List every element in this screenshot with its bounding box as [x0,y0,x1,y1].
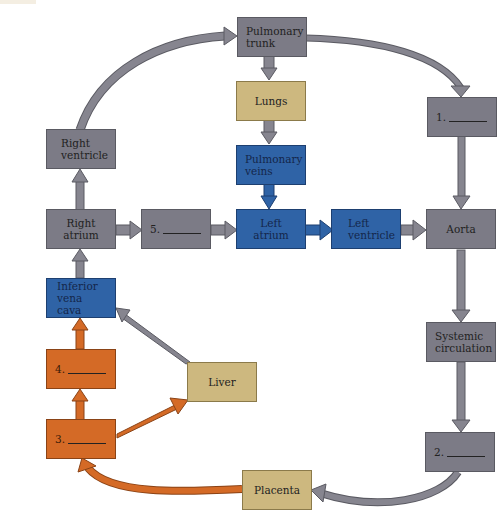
arrow-placenta-to-blank3 [78,458,242,491]
node-left-ventricle: Leftventricle [331,209,401,249]
node-blank-5: 5. [141,209,211,249]
node-placenta: Placenta [242,470,312,510]
node-pulmonary-trunk-line2: trunk [246,37,303,49]
node-right-ventricle-line1: Right [61,137,108,149]
node-placenta-label: Placenta [254,484,300,496]
node-pulmonary-trunk: Pulmonarytrunk [237,17,307,57]
node-right-atrium: Rightatrium [46,209,116,249]
arrow-blank5-to-left-atrium [211,221,237,239]
arrow-rv-to-pulmonary-trunk [80,27,237,130]
arrow-blank3-to-liver [117,398,188,438]
node-left-ventricle-line1: Left [348,217,395,229]
node-pulmonary-veins: Pulmonaryveins [236,145,306,185]
node-right-ventricle-line2: ventricle [61,149,108,161]
node-inferior-vena-cava: Inferiorvena cava [46,278,116,318]
node-liver-label: Liver [208,376,236,388]
node-pulmonary-veins-line1: Pulmonary [245,153,302,165]
arrow-ivc-to-right-atrium [72,249,88,278]
node-blank-3-answer-line[interactable] [68,435,106,444]
node-systemic-circulation-line2: circulation [435,342,492,354]
node-systemic-circulation: Systemiccirculation [426,322,496,362]
node-blank-1-answer-line[interactable] [449,113,487,122]
node-blank-2-answer-line[interactable] [447,448,485,457]
arrow-pulmonary-veins-to-left-atrium [261,184,277,209]
node-blank-4: 4. [46,349,116,389]
node-left-atrium: Leftatrium [236,209,306,249]
node-blank-2: 2. [425,432,495,472]
arrow-left-atrium-to-left-ventricle [304,220,333,240]
arrow-aorta-to-systemic-circulation [452,250,470,322]
node-aorta-label: Aorta [446,223,475,235]
node-lungs: Lungs [236,81,306,121]
arrow-lungs-to-pulmonary-veins [261,120,277,144]
node-blank-3-number: 3. [55,433,65,445]
node-systemic-circulation-line1: Systemic [435,330,492,342]
node-blank-4-answer-line[interactable] [68,365,106,374]
node-right-ventricle: Rightventricle [46,129,116,169]
arrow-blank2-to-placenta [311,472,458,502]
arrow-right-atrium-to-blank5 [116,221,142,239]
node-blank-5-answer-line[interactable] [163,225,201,234]
node-ivc-line1: Inferior [57,280,107,292]
arrow-blank3-to-blank4 [72,389,88,420]
node-left-atrium-line1: Left [253,217,289,229]
node-right-atrium-line2: atrium [63,229,99,241]
arrow-systemic-circulation-to-blank2 [452,362,470,432]
node-pulmonary-trunk-line1: Pulmonary [246,25,303,37]
arrow-liver-to-ivc [116,308,190,364]
node-blank-3: 3. [46,419,116,459]
arrow-right-atrium-to-right-ventricle [72,169,88,210]
node-lungs-label: Lungs [255,95,288,107]
arrow-blank1-to-aorta [453,136,470,209]
node-aorta: Aorta [426,209,496,249]
arrow-pulmonary-trunk-to-lungs [261,56,277,80]
arrow-pulmonary-trunk-to-blank1 [306,38,470,97]
node-blank-1-number: 1. [436,111,446,123]
arrow-left-ventricle-to-aorta [401,220,426,240]
node-blank-1: 1. [427,97,497,137]
node-liver: Liver [187,362,257,402]
node-left-atrium-line2: atrium [253,229,289,241]
node-blank-2-number: 2. [434,446,444,458]
node-right-atrium-line1: Right [63,217,99,229]
arrow-blank4-to-ivc [72,318,88,349]
node-ivc-line2: vena cava [57,292,107,316]
node-pulmonary-veins-line2: veins [245,165,302,177]
node-blank-5-number: 5. [150,223,160,235]
node-left-ventricle-line2: ventricle [348,229,395,241]
node-blank-4-number: 4. [55,363,65,375]
